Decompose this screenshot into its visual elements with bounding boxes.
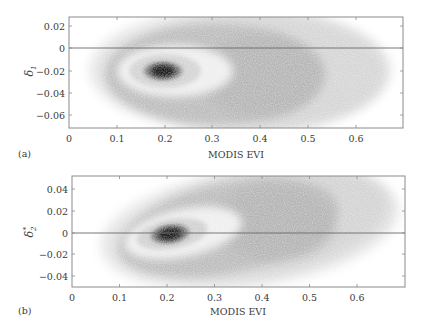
panel-label-a: (a) <box>18 148 31 159</box>
svg-text:0.3: 0.3 <box>207 292 222 303</box>
svg-text:δ2*: δ2* <box>22 226 38 238</box>
svg-text:δ1: δ1 <box>23 65 38 76</box>
y-tick-labels-b: 0.04 0.02 0 −0.02 −0.04 <box>39 184 68 282</box>
svg-text:0.3: 0.3 <box>204 133 219 144</box>
panel-a: 0.02 0 −0.02 −0.04 −0.06 0 0.1 0.2 0.3 0… <box>18 8 403 160</box>
panel-b: 0.04 0.02 0 −0.02 −0.04 0 0.1 0.2 0.3 0.… <box>18 149 407 317</box>
svg-text:−0.02: −0.02 <box>36 66 65 77</box>
density-cloud-b <box>72 149 407 307</box>
figure: 0.02 0 −0.02 −0.04 −0.06 0 0.1 0.2 0.3 0… <box>0 0 425 334</box>
svg-text:0.02: 0.02 <box>47 206 68 217</box>
svg-text:0.6: 0.6 <box>348 133 363 144</box>
svg-text:0.02: 0.02 <box>44 21 65 32</box>
x-tick-labels-b: 0 0.1 0.2 0.3 0.4 0.5 0.6 <box>69 292 365 303</box>
svg-text:−0.04: −0.04 <box>36 88 65 99</box>
svg-text:−0.02: −0.02 <box>39 249 68 260</box>
svg-text:0.2: 0.2 <box>157 133 172 144</box>
svg-text:−0.04: −0.04 <box>39 271 68 282</box>
svg-text:0.4: 0.4 <box>252 133 267 144</box>
y-tick-labels-a: 0.02 0 −0.02 −0.04 −0.06 <box>36 21 65 121</box>
x-tick-labels-a: 0 0.1 0.2 0.3 0.4 0.5 0.6 <box>66 133 364 144</box>
svg-text:0: 0 <box>66 133 72 144</box>
svg-text:0.04: 0.04 <box>47 184 68 195</box>
y-axis-label-b: δ2* <box>22 226 38 238</box>
svg-text:0: 0 <box>59 43 65 54</box>
svg-text:0.1: 0.1 <box>112 292 127 303</box>
x-axis-label-a: MODIS EVI <box>208 149 264 160</box>
svg-text:0: 0 <box>62 228 68 239</box>
svg-text:0.4: 0.4 <box>254 292 269 303</box>
panel-label-b: (b) <box>18 305 32 316</box>
svg-text:0.5: 0.5 <box>302 292 317 303</box>
svg-text:0.5: 0.5 <box>300 133 315 144</box>
svg-text:0.2: 0.2 <box>159 292 174 303</box>
svg-text:0.1: 0.1 <box>109 133 124 144</box>
svg-text:−0.06: −0.06 <box>36 110 65 121</box>
svg-text:0.6: 0.6 <box>349 292 364 303</box>
svg-text:0: 0 <box>69 292 75 303</box>
y-axis-label-a: δ1 <box>23 65 38 76</box>
density-cloud-a <box>69 8 403 132</box>
x-axis-label-b: MODIS EVI <box>210 306 266 317</box>
